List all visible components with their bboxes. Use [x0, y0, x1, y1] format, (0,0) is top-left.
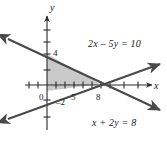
equation-label-line-1: 2x – 5y = 10: [88, 38, 141, 49]
y-tick-label-4: 4: [53, 48, 58, 58]
y-tick-label-negative-2: –2: [56, 97, 65, 107]
x-tick-label-5: 5: [71, 92, 76, 102]
graph-canvas: [0, 0, 167, 141]
y-axis-label: y: [50, 2, 54, 13]
x-tick-label-0: 0: [39, 92, 44, 102]
equation-label-line-2: x + 2y = 8: [92, 117, 136, 128]
x-tick-label-8: 8: [96, 92, 101, 102]
line-x-plus-2y-equals-8: [8, 39, 160, 110]
line-2x-minus-5y-equals-10: [8, 64, 160, 119]
coordinate-graph-figure: y x 0 5 8 4 –2 2x – 5y = 10 x + 2y = 8: [0, 0, 167, 141]
x-axis-label: x: [154, 80, 158, 91]
